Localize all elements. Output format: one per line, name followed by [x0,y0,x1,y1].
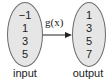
input-value: −1 [19,9,32,22]
output-value: 7 [86,48,92,61]
input-set-ellipse: −1 1 3 5 [7,2,43,67]
output-value: 1 [86,9,92,22]
output-caption: output [68,67,106,79]
input-value: 1 [22,22,28,35]
input-value: 3 [22,35,28,48]
output-set-ellipse: 1 3 5 7 [72,2,106,67]
output-value: 3 [86,22,92,35]
output-value: 5 [86,35,92,48]
arrow-right-icon [43,28,73,40]
input-value: 5 [22,48,28,61]
mapping-arrow [43,26,73,38]
input-caption: input [2,67,48,79]
